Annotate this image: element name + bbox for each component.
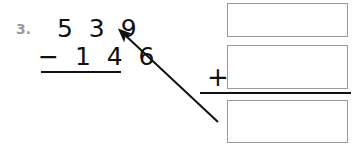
problem-number: 3.: [16, 22, 31, 36]
worksheet-canvas: 3. 5 3 9 − 1 4 6 +: [0, 0, 354, 148]
difference-box[interactable]: [227, 3, 348, 37]
plus-icon: +: [207, 64, 225, 90]
addition-rule-line: [200, 92, 351, 94]
subtrahend-box[interactable]: [227, 45, 348, 89]
sum-box[interactable]: [227, 100, 348, 143]
subtraction-rule-line: [41, 71, 121, 73]
minuend-value: 5 3 9: [57, 16, 141, 41]
subtrahend-row: − 1 4 6: [38, 44, 159, 69]
